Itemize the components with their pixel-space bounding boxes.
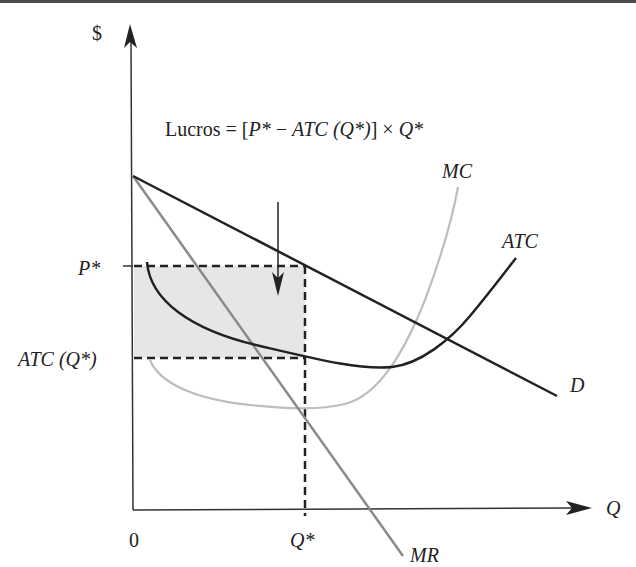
p-star-label: P* [77, 257, 100, 279]
atc-q-star-label: ATC (Q*) [16, 348, 97, 371]
x-axis [133, 508, 575, 510]
mc-label: MC [441, 160, 473, 182]
y-axis [131, 40, 133, 510]
profit-chart: $ Q 0 P* ATC (Q*) Q* MC ATC D MR Lucros … [0, 0, 636, 567]
demand-label: D [569, 374, 585, 396]
y-axis-label: $ [92, 22, 102, 44]
x-axis-label: Q [606, 497, 621, 519]
mr-label: MR [409, 544, 439, 566]
profit-annotation: Lucros = [P* − ATC (Q*)] × Q* [165, 118, 423, 141]
q-star-label: Q* [290, 529, 314, 551]
origin-label: 0 [129, 529, 139, 551]
atc-label: ATC [500, 230, 539, 252]
